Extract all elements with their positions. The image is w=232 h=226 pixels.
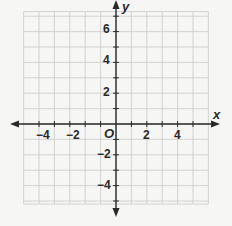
x-tick-label-4: 4 <box>174 128 181 142</box>
y-axis-label: y <box>121 0 130 14</box>
y-tick-label-neg2: −2 <box>97 147 111 161</box>
y-tick-label-2: 2 <box>103 85 110 99</box>
x-axis <box>10 121 220 128</box>
coordinate-plane: y x O −4 −2 2 4 6 4 2 −2 −4 <box>0 0 232 226</box>
y-tick-label-neg4: −4 <box>97 178 111 192</box>
y-axis-up-arrow-icon <box>113 0 120 9</box>
y-axis-down-arrow-icon <box>113 208 120 217</box>
x-tick-label-neg2: −2 <box>66 128 80 142</box>
x-tick-label-2: 2 <box>143 128 150 142</box>
x-axis-label: x <box>212 107 221 122</box>
y-tick-label-4: 4 <box>103 53 110 67</box>
origin-label: O <box>104 126 114 141</box>
x-tick-label-neg4: −4 <box>36 128 50 142</box>
y-tick-label-6: 6 <box>103 22 110 36</box>
x-axis-left-arrow-icon <box>10 121 19 128</box>
